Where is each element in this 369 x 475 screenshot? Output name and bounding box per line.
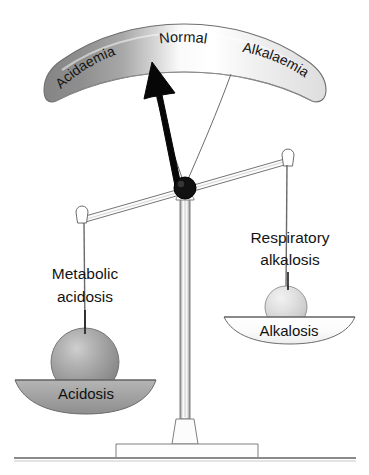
indicator-needle [144, 62, 182, 191]
base-pedestal [172, 419, 198, 444]
beam-right-tip [282, 149, 294, 166]
respiratory-alkalosis-callout: Respiratory alkalosis [250, 229, 329, 290]
support-column [176, 194, 194, 419]
respiratory-alkalosis-label-line1: Respiratory [250, 229, 329, 246]
needle-shaft-and-head [144, 62, 182, 191]
acidosis-pan-group: Acidosis [15, 328, 156, 414]
divider-normal-alkalaemia [185, 74, 231, 186]
metabolic-acidosis-callout: Metabolic acidosis [52, 265, 119, 334]
pivot-inner-highlight [178, 181, 184, 187]
alkalosis-pan-group: Alkalosis [224, 286, 355, 344]
stand-base [14, 419, 356, 461]
base-plinth [116, 444, 258, 458]
metabolic-acidosis-label-line1: Metabolic [52, 265, 119, 282]
metabolic-acidosis-label-line2: acidosis [57, 288, 113, 305]
diagram-canvas: Acidaemia Normal Alkalaemia [0, 0, 369, 475]
beam-left-tip [76, 206, 88, 223]
pivot-hub [174, 177, 196, 199]
alkalosis-pan-label: Alkalosis [259, 322, 318, 339]
respiratory-alkalosis-label-line2: alkalosis [260, 251, 320, 268]
pivot-outer [174, 177, 196, 199]
acidosis-pan-label: Acidosis [58, 385, 114, 402]
